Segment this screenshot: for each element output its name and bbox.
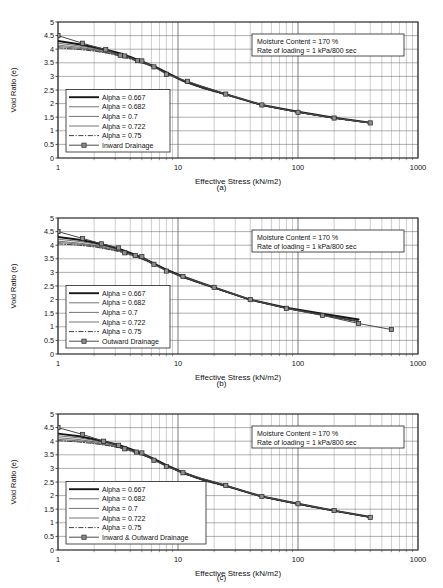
data-point-marker [117,443,121,447]
chart-panel-b: 00.511.522.533.544.551101001000Effective… [0,196,443,392]
y-axis-tick-labels: 00.511.522.533.544.55 [44,410,58,555]
data-point-marker [224,92,228,96]
annotation-box: Moisture Content = 170 %Rate of loading … [252,426,404,448]
data-point-marker [357,321,361,325]
annotation-box: Moisture Content = 170 %Rate of loading … [252,34,404,56]
legend-marker-5 [82,339,86,343]
svg-text:0.5: 0.5 [44,140,54,149]
legend: Alpha = 0.667Alpha = 0.682Alpha = 0.7Alp… [66,89,170,152]
svg-text:2.5: 2.5 [44,86,54,95]
data-point-marker [296,502,300,506]
data-point-marker [104,48,108,52]
svg-text:0: 0 [50,350,54,359]
svg-text:1.5: 1.5 [44,505,54,514]
svg-text:2: 2 [50,491,54,500]
svg-text:1: 1 [56,359,60,368]
annotation-line-1: Moisture Content = 170 % [257,430,338,437]
data-point-marker [80,236,84,240]
svg-text:1000: 1000 [410,163,426,172]
svg-text:2.5: 2.5 [44,282,54,291]
subfigure-label-a: (a) [0,183,443,192]
svg-text:0: 0 [50,546,54,555]
legend-label-1: Alpha = 0.682 [102,495,146,503]
data-point-marker [123,251,127,255]
legend-label-4: Alpha = 0.75 [102,524,142,532]
data-point-marker [260,494,264,498]
y-axis-tick-labels: 00.511.522.533.544.55 [44,214,58,359]
data-point-marker [320,313,324,317]
svg-text:3: 3 [50,464,54,473]
svg-text:0.5: 0.5 [44,532,54,541]
legend-label-5: Outward Drainage [102,338,159,346]
legend: Alpha = 0.667Alpha = 0.682Alpha = 0.7Alp… [66,285,170,348]
legend-label-0: Alpha = 0.667 [102,290,146,298]
legend-label-2: Alpha = 0.7 [102,309,138,317]
data-point-marker [152,262,156,266]
subfigure-label-b: (b) [0,379,443,388]
legend-label-2: Alpha = 0.7 [102,505,138,513]
legend-label-3: Alpha = 0.722 [102,123,146,131]
svg-text:10: 10 [174,359,182,368]
data-point-marker [134,450,138,454]
data-point-marker [296,110,300,114]
svg-text:2: 2 [50,99,54,108]
annotation-line-1: Moisture Content = 170 % [257,38,338,45]
legend-label-4: Alpha = 0.75 [102,328,142,336]
svg-text:0.5: 0.5 [44,336,54,345]
svg-text:3: 3 [50,268,54,277]
annotation-box: Moisture Content = 170 %Rate of loading … [252,230,404,252]
chart-c: 00.511.522.533.544.551101001000Effective… [0,392,443,588]
data-point-marker [140,451,144,455]
x-axis-tick-labels: 1101001000 [56,354,426,368]
svg-text:10: 10 [174,163,182,172]
data-point-marker [123,447,127,451]
svg-text:3.5: 3.5 [44,58,54,67]
svg-text:2.5: 2.5 [44,478,54,487]
data-point-marker [164,72,168,76]
svg-text:4: 4 [50,45,54,54]
data-point-marker [224,483,228,487]
annotation-line-1: Moisture Content = 170 % [257,234,338,241]
svg-text:1000: 1000 [410,359,426,368]
svg-text:4: 4 [50,241,54,250]
svg-text:3.5: 3.5 [44,450,54,459]
svg-text:4.5: 4.5 [44,31,54,40]
data-point-marker [152,65,156,69]
data-point-marker [164,269,168,273]
data-point-marker [185,79,189,83]
data-point-marker [123,54,127,58]
svg-text:100: 100 [292,555,304,564]
svg-text:0: 0 [50,154,54,163]
chart-panel-c: 00.511.522.533.544.551101001000Effective… [0,392,443,588]
svg-text:10: 10 [174,555,182,564]
data-point-marker [260,103,264,107]
svg-text:100: 100 [292,163,304,172]
svg-text:1000: 1000 [410,555,426,564]
data-point-marker [212,285,216,289]
data-point-marker [368,121,372,125]
legend-marker-5 [82,535,86,539]
svg-text:1.5: 1.5 [44,309,54,318]
x-axis-tick-labels: 1101001000 [56,158,426,172]
svg-text:2: 2 [50,295,54,304]
legend-label-5: Inward & Outward Drainage [102,534,188,542]
legend: Alpha = 0.667Alpha = 0.682Alpha = 0.7Alp… [66,481,206,544]
chart-panel-a: 00.511.522.533.544.551101001000Effective… [0,0,443,196]
annotation-line-2: Rate of loading = 1 kPa/800 sec [257,439,357,447]
legend-label-0: Alpha = 0.667 [102,486,146,494]
data-point-marker [102,439,106,443]
consolidation-figure: 00.511.522.533.544.551101001000Effective… [0,0,443,588]
data-point-marker [80,432,84,436]
data-point-marker [80,41,84,45]
data-point-marker [332,508,336,512]
svg-text:100: 100 [292,359,304,368]
data-point-marker [99,242,103,246]
svg-text:1: 1 [56,555,60,564]
data-point-marker [181,274,185,278]
svg-text:1: 1 [50,518,54,527]
svg-text:4.5: 4.5 [44,227,54,236]
svg-text:1: 1 [50,322,54,331]
data-point-marker [368,515,372,519]
legend-marker-5 [82,143,86,147]
svg-text:1: 1 [56,163,60,172]
